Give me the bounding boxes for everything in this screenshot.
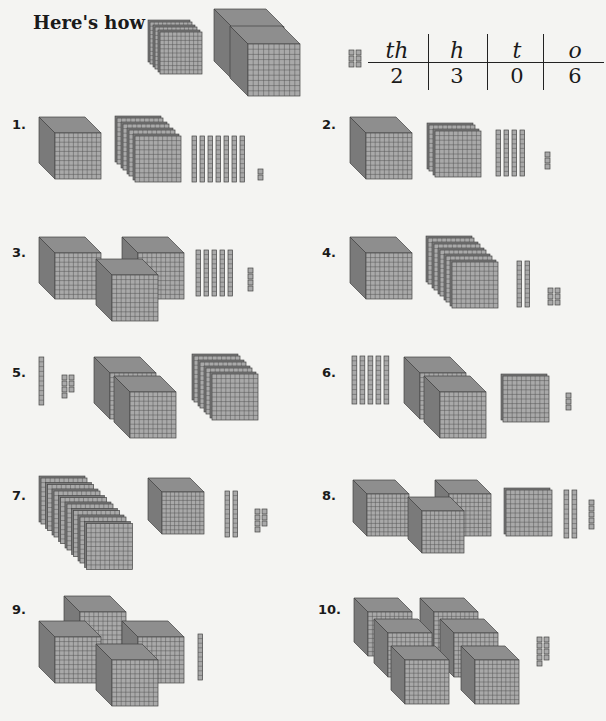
- one-unit: [537, 643, 542, 648]
- one-unit: [544, 655, 549, 660]
- one-unit: [544, 643, 549, 648]
- one-unit: [544, 637, 549, 642]
- exercise-10-blocks: [0, 0, 606, 721]
- one-unit: [537, 637, 542, 642]
- one-unit: [537, 649, 542, 654]
- thousand-cube: [391, 646, 449, 704]
- one-unit: [537, 655, 542, 660]
- one-unit: [537, 661, 542, 666]
- one-unit: [544, 649, 549, 654]
- thousand-cube: [461, 646, 519, 704]
